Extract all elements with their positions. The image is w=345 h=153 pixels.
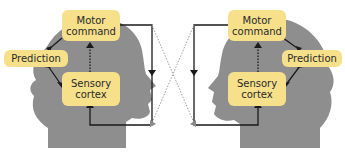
left-motor-command-box: Motor command <box>62 10 120 41</box>
right-motor-command-box: Motor command <box>228 10 286 41</box>
right-sensory-cortex-box: Sensory cortex <box>228 72 286 106</box>
right-prediction-box: Prediction <box>282 50 342 67</box>
diagram-canvas <box>0 0 345 153</box>
left-sensory-cortex-box: Sensory cortex <box>62 72 120 106</box>
left-prediction-box: Prediction <box>4 50 68 67</box>
